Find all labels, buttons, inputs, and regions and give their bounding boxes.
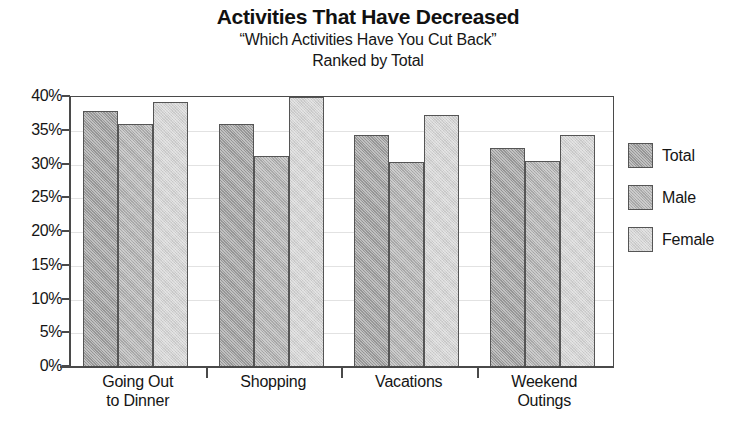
x-axis-category-label-line: Weekend (477, 372, 613, 391)
bar-shopping-male (254, 156, 289, 367)
chart-title: Activities That Have Decreased (0, 4, 736, 29)
x-axis-category-label: Vacations (341, 372, 477, 391)
bar-shopping-female (289, 97, 324, 367)
x-axis-category-label: WeekendOutings (477, 372, 613, 410)
x-axis-category-label-line: to Dinner (70, 391, 206, 410)
legend-swatch-icon (628, 185, 653, 210)
chart-subtitle: “Which Activities Have You Cut Back” (0, 29, 736, 50)
y-axis-tick-label: 15% (4, 257, 62, 273)
x-axis-category-label-line: Shopping (206, 372, 342, 391)
legend-item-female[interactable]: Female (628, 227, 714, 252)
legend-label: Female (662, 232, 714, 248)
bar-shopping-total (219, 124, 254, 367)
bar-chart: Activities That Have Decreased “Which Ac… (0, 0, 736, 430)
legend-label: Male (662, 190, 696, 206)
x-axis-category-label-line: Going Out (70, 372, 206, 391)
legend-item-male[interactable]: Male (628, 185, 696, 210)
chart-title-block: Activities That Have Decreased “Which Ac… (0, 4, 736, 71)
bar-weekend-outings-total (490, 148, 525, 367)
bar-weekend-outings-male (525, 161, 560, 367)
bar-weekend-outings-female (560, 135, 595, 367)
bar-going-out-to-dinner-total (83, 111, 118, 368)
y-axis-tick-label: 35% (4, 122, 62, 138)
bar-vacations-total (354, 135, 389, 367)
legend-item-total[interactable]: Total (628, 143, 695, 168)
y-axis-tick-label: 25% (4, 189, 62, 205)
bars-layer (71, 97, 613, 367)
y-axis-tick-label: 20% (4, 223, 62, 239)
x-axis-category-label: Going Outto Dinner (70, 372, 206, 410)
x-axis-line (60, 366, 613, 368)
y-axis-tick-label: 0% (4, 358, 62, 374)
bar-going-out-to-dinner-male (118, 124, 153, 367)
legend-swatch-icon (628, 143, 653, 168)
y-axis-tick-label: 10% (4, 291, 62, 307)
x-axis-category-label-line: Outings (477, 391, 613, 410)
legend-label: Total (662, 148, 695, 164)
legend-swatch-icon (628, 227, 653, 252)
y-axis-tick-label: 40% (4, 88, 62, 104)
bar-vacations-male (389, 162, 424, 367)
x-axis-category-label-line: Vacations (341, 372, 477, 391)
x-axis-category-label: Shopping (206, 372, 342, 391)
bar-vacations-female (424, 115, 459, 367)
y-axis-tick-label: 5% (4, 324, 62, 340)
y-axis: 40%35%30%25%20%15%10%5%0% (0, 0, 62, 430)
bar-going-out-to-dinner-female (153, 102, 188, 367)
plot-area (70, 96, 614, 368)
chart-subtitle-secondary: Ranked by Total (0, 50, 736, 71)
y-axis-tick-label: 30% (4, 156, 62, 172)
